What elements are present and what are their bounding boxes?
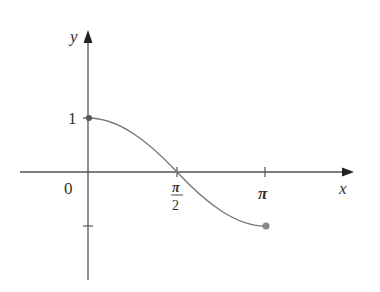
origin-label: 0 — [64, 179, 73, 198]
start-point-dot — [86, 115, 92, 121]
y-one-label: 1 — [68, 109, 77, 128]
pi-label: π — [258, 184, 268, 203]
pi-half-numerator: π — [172, 180, 180, 195]
cosine-graph: y x 0 1 π 2 π — [0, 0, 380, 292]
end-point-dot — [263, 223, 270, 230]
x-axis-label: x — [338, 179, 347, 198]
pi-half-denominator: 2 — [172, 198, 179, 213]
x-axis-arrow-icon — [342, 168, 354, 177]
y-axis-label: y — [68, 27, 78, 46]
y-axis-arrow-icon — [84, 30, 93, 43]
